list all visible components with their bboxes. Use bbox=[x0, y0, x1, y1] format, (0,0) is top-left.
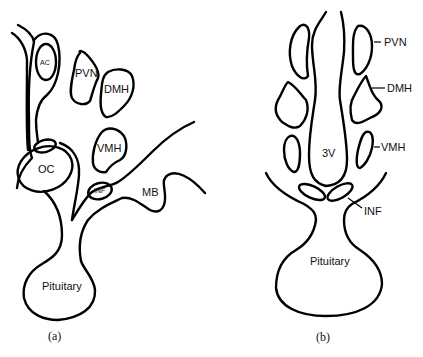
panel-a: AC PVN DMH VMH OC INF MB Pituitary (a) bbox=[11, 25, 205, 343]
vmh-label: VMH bbox=[97, 142, 122, 154]
mb-label: MB bbox=[142, 186, 159, 198]
pituitary-label-a: Pituitary bbox=[42, 280, 82, 292]
stalk-left bbox=[24, 191, 62, 320]
inf-label-b: INF bbox=[364, 205, 382, 217]
third-ventricle-right-wall bbox=[326, 12, 347, 186]
inf-label: INF bbox=[94, 187, 105, 194]
anterior-wall-top bbox=[12, 33, 28, 150]
caption-a: (a) bbox=[48, 329, 61, 343]
ac-label: AC bbox=[40, 59, 50, 66]
vmh-right bbox=[357, 132, 373, 168]
third-ventricle-left-wall bbox=[309, 12, 326, 186]
dmh-right bbox=[351, 76, 382, 123]
pituitary-b bbox=[276, 220, 382, 316]
pvn-right bbox=[353, 26, 372, 75]
dmh-label: DMH bbox=[104, 83, 129, 95]
pvn-left bbox=[290, 25, 309, 79]
dmh-left bbox=[276, 82, 308, 128]
3v-label: 3V bbox=[322, 147, 336, 159]
pituitary-label-b: Pituitary bbox=[310, 255, 350, 267]
floor-upper bbox=[72, 122, 194, 220]
panel-b: 3V PVN DMH VMH INF Pituitary (b) bbox=[266, 12, 412, 344]
pvn-label-b: PVN bbox=[384, 36, 407, 48]
caption-b: (b) bbox=[316, 330, 330, 344]
vmh-label-b: VMH bbox=[381, 141, 406, 153]
hypothalamus-diagram: AC PVN DMH VMH OC INF MB Pituitary (a) bbox=[0, 0, 423, 357]
vmh-left bbox=[284, 136, 300, 172]
dmh-label-b: DMH bbox=[387, 82, 412, 94]
pvn-label: PVN bbox=[75, 67, 98, 79]
oc-label: OC bbox=[38, 163, 55, 175]
